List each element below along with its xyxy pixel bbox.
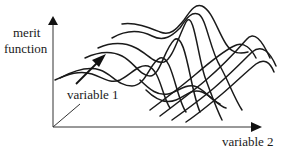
merit-function-diagram bbox=[0, 0, 290, 154]
variable-2-axis-arrowhead bbox=[251, 122, 262, 132]
variable-1-label: variable 1 bbox=[67, 88, 119, 101]
ridge-curve-3 bbox=[172, 49, 276, 120]
merit-function-axis-arrowhead bbox=[48, 16, 58, 25]
variable-2-label: variable 2 bbox=[222, 135, 274, 148]
merit-axis-label-line1: merit bbox=[13, 26, 40, 39]
surface-curves bbox=[55, 6, 276, 122]
merit-axis-label-line2: function bbox=[4, 42, 47, 55]
surface-curve-4 bbox=[98, 20, 222, 120]
variable-1-axis bbox=[53, 104, 80, 127]
surface-curve-6 bbox=[122, 6, 248, 54]
search-direction-arrow bbox=[76, 54, 106, 84]
